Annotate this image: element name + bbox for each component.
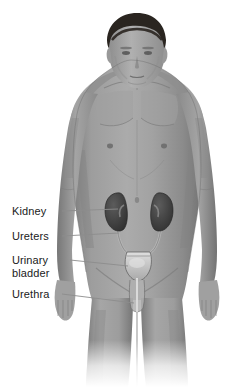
- eyebrow-right: [142, 47, 154, 50]
- eyebrow-left: [120, 47, 132, 50]
- pectoral-left: [96, 91, 133, 126]
- bottom-fade: [0, 340, 237, 387]
- pectoral-right: [141, 91, 178, 126]
- label-kidney-line1: Kidney: [12, 205, 46, 217]
- nipple-left: [107, 144, 113, 149]
- label-urethra-line1: Urethra: [12, 288, 49, 300]
- label-urinary-bladder: Urinary bladder: [12, 254, 49, 279]
- nipple-right: [161, 144, 167, 149]
- label-ureters-line1: Ureters: [12, 230, 49, 242]
- eye-right: [144, 51, 152, 55]
- label-urethra: Urethra: [12, 288, 49, 301]
- urinary-system-figure: Kidney Ureters Urinary bladder Urethra: [0, 0, 237, 387]
- navel: [135, 197, 139, 203]
- anatomy-illustration: [0, 0, 237, 387]
- label-bladder-line1: Urinary: [12, 254, 49, 267]
- body-figure: [55, 13, 220, 387]
- label-kidney: Kidney: [12, 205, 46, 218]
- label-bladder-line2: bladder: [12, 267, 49, 280]
- label-ureters: Ureters: [12, 230, 49, 243]
- bladder-highlight: [129, 258, 145, 268]
- eye-left: [122, 51, 130, 55]
